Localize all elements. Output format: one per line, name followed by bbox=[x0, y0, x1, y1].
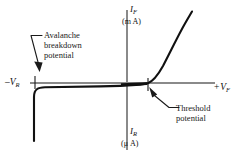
annotation-line-1: Threshold bbox=[176, 103, 210, 113]
diode-iv-characteristic-figure: IF (m A) IR (μ A) –VR + VF Avalanche bre… bbox=[0, 0, 250, 159]
axis-subscript-ir: R bbox=[133, 130, 137, 137]
threshold-arrowhead bbox=[149, 87, 157, 97]
annotation-line-3: potential bbox=[44, 50, 82, 60]
axis-unit-ua: (μ A) bbox=[121, 139, 138, 149]
axis-label-reverse-current: IR (μ A) bbox=[130, 126, 138, 149]
avalanche-arrowhead bbox=[34, 62, 42, 72]
axis-subscript-if: F bbox=[133, 8, 137, 15]
annotation-threshold-potential: Threshold potential bbox=[176, 103, 210, 123]
axis-label-forward-current: IF (m A) bbox=[130, 4, 141, 27]
annotation-line-2: potential bbox=[176, 113, 210, 123]
avalanche-leader-line bbox=[31, 36, 42, 65]
axis-unit-ma: (m A) bbox=[122, 17, 141, 27]
origin-flat-segment bbox=[121, 84, 147, 85]
axis-label-forward-voltage: + VF bbox=[214, 82, 230, 93]
axis-subscript-vf: F bbox=[226, 86, 230, 93]
annotation-line-1: Avalanche bbox=[44, 30, 82, 40]
axis-label-reverse-voltage: –VR bbox=[5, 77, 20, 88]
annotation-line-2: breakdown bbox=[44, 40, 82, 50]
axis-sign-vf: + bbox=[214, 82, 219, 92]
axis-subscript-vr: R bbox=[16, 81, 20, 88]
annotation-avalanche-breakdown: Avalanche breakdown potential bbox=[44, 30, 82, 61]
